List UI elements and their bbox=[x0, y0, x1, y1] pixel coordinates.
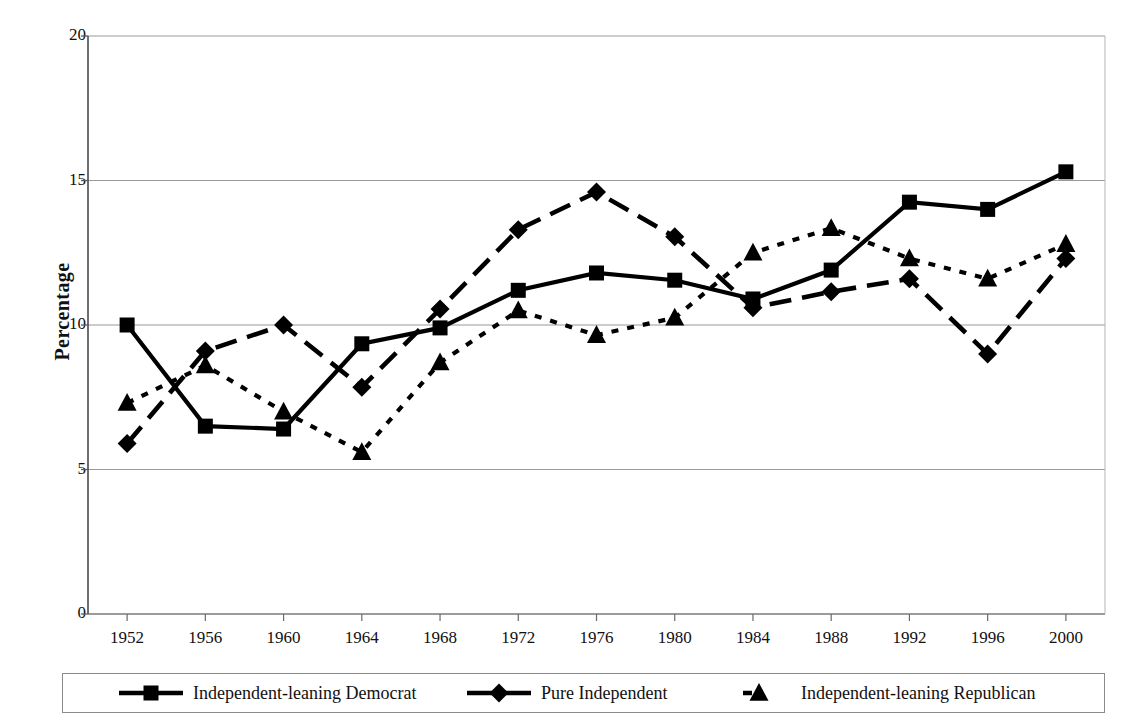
plot-area bbox=[0, 0, 1131, 726]
data-series-layer bbox=[118, 164, 1076, 460]
gridlines bbox=[88, 36, 1105, 614]
series-diamond bbox=[118, 183, 1076, 453]
legend-label: Pure Independent bbox=[541, 683, 667, 704]
legend-marker-triangle-icon bbox=[723, 681, 795, 705]
axis-lines bbox=[81, 36, 1105, 621]
legend-marker-diamond-icon bbox=[463, 681, 535, 705]
legend-item[interactable]: Pure Independent bbox=[463, 674, 667, 712]
legend-item[interactable]: Independent-leaning Republican bbox=[723, 674, 1035, 712]
legend-label: Independent-leaning Republican bbox=[801, 683, 1035, 704]
legend-label: Independent-leaning Democrat bbox=[193, 683, 416, 704]
legend-marker-square-icon bbox=[115, 681, 187, 705]
line-chart: Percentage 05101520 19521956196019641968… bbox=[0, 0, 1131, 726]
legend-item[interactable]: Independent-leaning Democrat bbox=[115, 674, 416, 712]
series-triangle bbox=[118, 218, 1076, 460]
chart-legend: Independent-leaning DemocratPure Indepen… bbox=[62, 673, 1105, 713]
